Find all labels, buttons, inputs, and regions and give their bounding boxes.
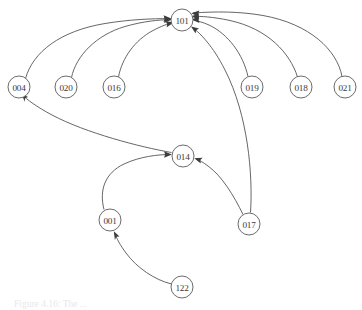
node-016[interactable]: 016: [103, 76, 125, 98]
node-019[interactable]: 019: [241, 76, 263, 98]
node-label-101: 101: [175, 16, 189, 26]
node-021[interactable]: 021: [334, 76, 356, 98]
edge-004-to-101: [26, 19, 170, 79]
edge-021-to-101: [193, 12, 342, 77]
edge-016-to-101: [119, 23, 173, 77]
node-group: 101 004 020 016 019 018: [8, 9, 356, 298]
node-label-004: 004: [12, 83, 26, 93]
directed-graph: 101 004 020 016 019 018: [0, 0, 362, 310]
node-label-014: 014: [176, 152, 190, 162]
arrowhead-017-to-101: [191, 26, 199, 33]
figure-container: 101 004 020 016 019 018: [0, 0, 362, 310]
edge-122-to-001: [115, 233, 172, 284]
arrowhead-017-to-014: [194, 158, 203, 164]
node-017[interactable]: 017: [238, 213, 260, 235]
node-label-018: 018: [294, 83, 308, 93]
edge-014-to-004: [23, 95, 172, 153]
node-label-020: 020: [59, 83, 73, 93]
edge-019-to-101: [194, 20, 249, 77]
node-004[interactable]: 004: [8, 76, 30, 98]
node-label-122: 122: [175, 283, 189, 293]
node-label-001: 001: [103, 216, 117, 226]
node-122[interactable]: 122: [171, 276, 193, 298]
node-label-021: 021: [338, 83, 352, 93]
edge-017-to-101: [193, 28, 252, 213]
node-014[interactable]: 014: [172, 145, 194, 167]
node-001[interactable]: 001: [99, 209, 121, 231]
node-020[interactable]: 020: [55, 76, 77, 98]
edge-001-to-014: [102, 155, 170, 210]
node-label-017: 017: [242, 220, 256, 230]
node-101[interactable]: 101: [171, 9, 193, 31]
node-label-019: 019: [245, 83, 259, 93]
figure-caption: Figure 4.16: The ...: [14, 299, 354, 309]
node-label-016: 016: [107, 83, 121, 93]
edge-017-to-014: [196, 159, 243, 215]
node-018[interactable]: 018: [290, 76, 312, 98]
